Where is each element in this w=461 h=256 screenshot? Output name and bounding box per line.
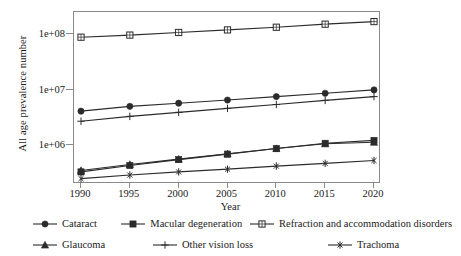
legend-marker [249,218,275,230]
filled-circle-marker [127,103,133,109]
legend-row: CataractMacular degenerationRefraction a… [32,213,452,234]
x-axis-tick-label: 1995 [118,188,139,199]
legend-label: Refraction and accommodation disorders [279,218,452,229]
legend-item-trachoma[interactable]: Trachoma [327,239,399,251]
filled-circle-marker [78,108,84,114]
x-axis-tick-label: 2000 [167,188,188,199]
x-axis-tick-label: 2005 [216,188,237,199]
filled-circle-marker [176,100,182,106]
chart-figure: All age prevalence number 1e+081e+071e+0… [0,0,461,256]
filled-square-marker [130,220,136,226]
plot-area [73,11,380,183]
legend-marker [32,239,58,251]
filled-circle-marker [224,97,230,103]
y-axis-title: All age prevalence number [17,14,28,174]
open-square-marker [127,32,133,38]
series-canvas [74,12,381,184]
legend-label: Macular degeneration [150,218,242,229]
open-square-marker [273,24,279,30]
plus-marker [161,241,168,248]
x-axis-tick-label: 2010 [265,188,286,199]
series-trachoma [78,157,376,183]
legend-marker [32,218,58,230]
legend-label: Glaucoma [62,239,105,250]
x-axis-title: Year [0,201,461,212]
open-square-marker [259,220,265,226]
legend-marker [327,239,353,251]
x-axis-tick-label: 1990 [70,188,91,199]
y-axis-tick-label: 1e+07 [39,83,65,94]
legend-label: Cataract [62,218,97,229]
y-axis-tick-label: 1e+06 [39,139,65,150]
chart-legend: CataractMacular degenerationRefraction a… [32,213,452,255]
open-square-marker [322,21,328,27]
plus-marker [77,118,84,125]
filled-circle-marker [322,90,328,96]
legend-item-other-vision-loss[interactable]: Other vision loss [152,239,327,251]
plus-marker [224,105,231,112]
plus-marker [126,113,133,120]
open-square-marker [78,34,84,40]
legend-marker [152,239,178,251]
x-axis-tick-label: 2015 [314,188,335,199]
open-square-marker [176,29,182,35]
x-axis-tick-label: 2020 [363,188,384,199]
filled-circle-marker [273,93,279,99]
legend-label: Other vision loss [182,239,253,250]
open-square-marker [224,27,230,33]
legend-item-macular-degeneration[interactable]: Macular degeneration [120,218,249,230]
y-axis-tick [66,144,73,145]
plus-marker [370,93,377,100]
filled-circle-marker [42,220,48,226]
legend-item-refraction-and-accommodation-disorders[interactable]: Refraction and accommodation disorders [249,218,452,230]
legend-marker [120,218,146,230]
legend-item-glaucoma[interactable]: Glaucoma [32,239,152,251]
y-axis-tick [66,33,73,34]
y-axis-tick-label: 1e+08 [39,28,65,39]
open-square-marker [371,18,377,24]
legend-row: GlaucomaOther vision lossTrachoma [32,234,452,255]
y-axis-tick [66,89,73,90]
plus-marker [175,109,182,116]
plus-marker [321,97,328,104]
plus-marker [273,101,280,108]
filled-circle-marker [371,87,377,93]
legend-label: Trachoma [357,239,399,250]
series-refraction-and-accommodation-disorders [78,18,377,40]
legend-item-cataract[interactable]: Cataract [32,218,120,230]
